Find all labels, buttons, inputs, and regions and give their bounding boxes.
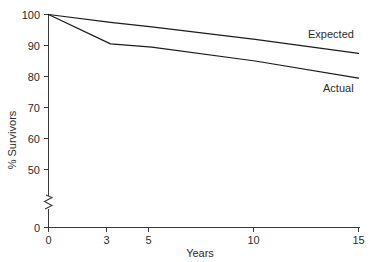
axis-group: [45, 14, 361, 228]
x-tick-labels: 0 3 5 10 15: [45, 234, 364, 246]
y-tick-label-60: 60: [28, 133, 40, 145]
x-tick-label-5: 5: [145, 234, 151, 246]
y-tick-label-50: 50: [28, 164, 40, 176]
y-axis-title: % Survivors: [6, 110, 18, 169]
y-tick-labels: 100 90 80 70 60 50 0: [22, 9, 40, 234]
series-label-actual: Actual: [323, 82, 354, 94]
y-tick-label-0: 0: [34, 222, 40, 234]
y-axis-break-icon: [45, 195, 53, 209]
chart-canvas: 100 90 80 70 60 50 0 0 3 5 10 15 % Survi…: [0, 0, 374, 262]
x-tick-label-0: 0: [45, 234, 51, 246]
x-tick-label-15: 15: [352, 234, 364, 246]
y-tick-label-80: 80: [28, 71, 40, 83]
y-tick-label-70: 70: [28, 102, 40, 114]
x-axis-title: Years: [186, 247, 214, 259]
x-tick-label-3: 3: [103, 234, 109, 246]
survival-line-chart: 100 90 80 70 60 50 0 0 3 5 10 15 % Survi…: [0, 0, 374, 262]
actual-line: [49, 15, 359, 79]
x-tick-label-10: 10: [247, 234, 259, 246]
y-tick-label-100: 100: [22, 9, 40, 21]
series-label-expected: Expected: [308, 28, 354, 40]
x-tick-marks: [49, 228, 359, 233]
y-tick-label-90: 90: [28, 40, 40, 52]
